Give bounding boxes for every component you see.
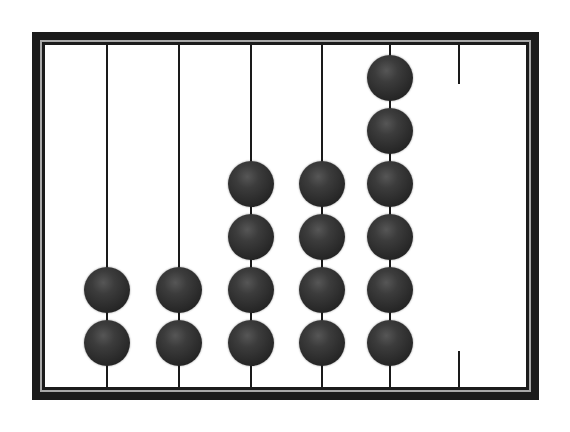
abacus-bead — [367, 320, 413, 366]
abacus-bead — [299, 214, 345, 260]
abacus-bead — [367, 55, 413, 101]
abacus-bead — [228, 267, 274, 313]
abacus-bead — [299, 320, 345, 366]
abacus-bead — [156, 320, 202, 366]
abacus-illustration — [0, 0, 570, 432]
abacus-bead — [367, 267, 413, 313]
abacus-bead — [84, 267, 130, 313]
abacus-bead — [228, 161, 274, 207]
abacus-bead — [299, 161, 345, 207]
abacus-bead — [84, 320, 130, 366]
abacus-bead — [228, 214, 274, 260]
abacus-bead — [228, 320, 274, 366]
abacus-bead — [367, 214, 413, 260]
abacus-bead — [367, 108, 413, 154]
partial-rod-stub-bottom — [458, 351, 460, 387]
partial-rod-stub-top — [458, 45, 460, 84]
abacus-bead — [156, 267, 202, 313]
abacus-bead — [299, 267, 345, 313]
abacus-bead — [367, 161, 413, 207]
